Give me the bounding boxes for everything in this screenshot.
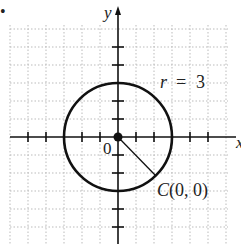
x-axis-label: x — [235, 133, 241, 152]
radius-segment — [118, 137, 156, 176]
bullet: • — [0, 3, 6, 20]
y-axis-label: y — [102, 3, 112, 22]
circle-graph: • y x 0 r = 3 C(0, 0) — [0, 0, 241, 244]
radius-label-val: 3 — [196, 72, 205, 92]
y-axis-arrow-icon — [115, 6, 121, 15]
center-point — [114, 133, 123, 142]
center-label: C(0, 0) — [157, 180, 208, 201]
origin-label: 0 — [103, 139, 112, 158]
radius-label-var: r — [160, 72, 168, 92]
radius-label-eq: = — [176, 72, 186, 92]
